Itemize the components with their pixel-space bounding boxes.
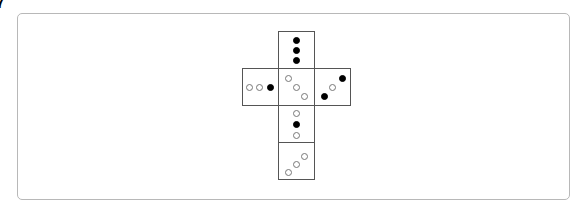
figure-label: 7: [0, 0, 5, 12]
net-face-lower: [278, 105, 315, 143]
hollow-dot-icon: [293, 132, 300, 139]
hollow-dot-icon: [285, 169, 292, 176]
hollow-dot-icon: [301, 93, 308, 100]
hollow-dot-icon: [293, 84, 300, 91]
hollow-dot-icon: [285, 75, 292, 82]
hollow-dot-icon: [256, 84, 263, 91]
net-face-left: [242, 68, 279, 106]
filled-dot-icon: [339, 75, 346, 82]
filled-dot-icon: [293, 57, 300, 64]
net-face-top: [278, 31, 315, 69]
hollow-dot-icon: [301, 153, 308, 160]
net-face-center: [278, 68, 315, 106]
hollow-dot-icon: [246, 84, 253, 91]
filled-dot-icon: [267, 84, 274, 91]
net-face-bottom: [278, 142, 315, 180]
filled-dot-icon: [321, 93, 328, 100]
net-face-right: [314, 68, 351, 106]
hollow-dot-icon: [329, 84, 336, 91]
hollow-dot-icon: [293, 110, 300, 117]
hollow-dot-icon: [293, 161, 300, 168]
filled-dot-icon: [293, 47, 300, 54]
filled-dot-icon: [293, 121, 300, 128]
filled-dot-icon: [293, 37, 300, 44]
